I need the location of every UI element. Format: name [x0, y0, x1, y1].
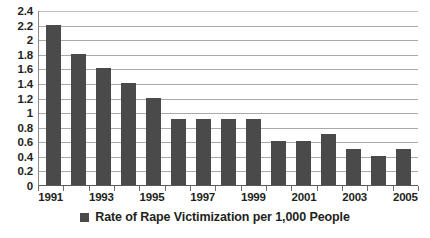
bar-slot	[66, 11, 91, 185]
bar	[371, 156, 387, 185]
y-axis-tick-label: 2	[27, 35, 33, 46]
x-axis-tick-label: 1993	[89, 191, 114, 203]
bar-slot	[291, 11, 316, 185]
x-axis-tick-label: 1991	[38, 191, 63, 203]
x-axis-tick-label: 2005	[393, 191, 418, 203]
bar-slot	[191, 11, 216, 185]
y-axis-tick-label: 2.2	[18, 20, 33, 31]
y-axis-tick-label: 2.4	[18, 6, 33, 17]
x-axis-tick-label: 1997	[190, 191, 215, 203]
bar-slot	[116, 11, 141, 185]
bar	[346, 149, 362, 185]
y-axis-tick-label: 0.2	[18, 166, 33, 177]
x-axis-tick-label: 2001	[292, 191, 317, 203]
bar-slot	[91, 11, 116, 185]
y-axis-tick-label: 0	[27, 181, 33, 192]
bar	[171, 119, 187, 185]
y-axis-tick-labels: 2.42.221.81.61.41.210.80.60.40.20	[0, 0, 36, 200]
bars-group	[39, 11, 418, 185]
bar-slot	[341, 11, 366, 185]
bar-slot	[141, 11, 166, 185]
bar	[121, 83, 137, 185]
y-axis-tick-label: 1.4	[18, 78, 33, 89]
y-axis-tick-label: 1.6	[18, 64, 33, 75]
x-axis-tick-label: 1999	[241, 191, 266, 203]
bar	[296, 141, 312, 185]
bar	[221, 119, 237, 185]
bar	[146, 98, 162, 186]
bar-slot	[241, 11, 266, 185]
plot-area	[38, 11, 418, 186]
x-axis-tick-label: 2003	[342, 191, 367, 203]
bar	[46, 25, 62, 185]
y-axis-tick-label: 0.6	[18, 137, 33, 148]
bar	[196, 119, 212, 185]
bar	[246, 119, 262, 185]
bar-slot	[41, 11, 66, 185]
bar-slot	[391, 11, 416, 185]
x-axis-tick	[418, 186, 419, 191]
y-axis-tick-label: 1.8	[18, 49, 33, 60]
y-axis-tick-label: 1	[27, 108, 33, 119]
bar	[271, 141, 287, 185]
bar	[71, 54, 87, 185]
x-axis-tick-label: 1995	[140, 191, 165, 203]
bar-slot	[216, 11, 241, 185]
x-axis-tick-labels: 19911993199519971999200120032005	[38, 191, 418, 207]
y-axis-tick-label: 1.2	[18, 93, 33, 104]
legend-color-swatch	[80, 213, 89, 222]
bar-chart-figure: 2.42.221.81.61.41.210.80.60.40.20 199119…	[0, 0, 430, 238]
y-axis-tick-label: 0.8	[18, 122, 33, 133]
chart-legend: Rate of Rape Victimization per 1,000 Peo…	[0, 210, 430, 224]
bar-slot	[266, 11, 291, 185]
bar-slot	[166, 11, 191, 185]
y-axis-tick-label: 0.4	[18, 151, 33, 162]
legend-entry-label: Rate of Rape Victimization per 1,000 Peo…	[95, 210, 350, 224]
bar	[396, 149, 412, 185]
bar	[321, 134, 337, 185]
plot-wrapper: 2.42.221.81.61.41.210.80.60.40.20 199119…	[0, 0, 430, 200]
bar-slot	[366, 11, 391, 185]
bar-slot	[316, 11, 341, 185]
bar	[96, 68, 112, 185]
